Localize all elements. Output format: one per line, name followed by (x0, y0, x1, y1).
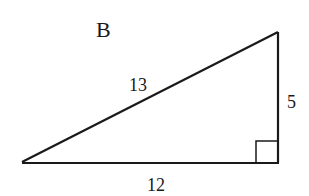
horizontal-leg-label: 12 (147, 175, 165, 195)
right-triangle (22, 32, 279, 163)
hypotenuse-line (22, 32, 278, 162)
vertical-leg-label: 5 (287, 92, 296, 112)
triangle-diagram: B 13 5 12 (0, 0, 309, 196)
right-angle-marker (256, 141, 278, 163)
hypotenuse-label: 13 (129, 75, 147, 95)
figure-label: B (96, 17, 111, 42)
